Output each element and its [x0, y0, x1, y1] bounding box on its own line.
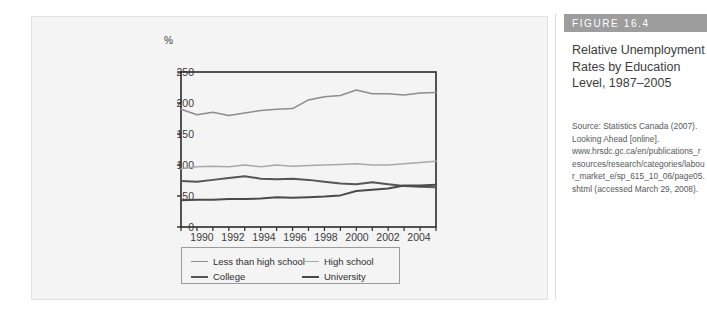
legend-label-less-than-high-school: Less than high school [213, 256, 305, 267]
axis-ticks [177, 72, 436, 231]
legend-item-college: College [191, 271, 245, 282]
legend-item-university: University [302, 271, 366, 282]
legend-label-college: College [213, 271, 245, 282]
figure-caption-column: FIGURE 16.4 Relative Unemployment Rates … [555, 14, 707, 300]
legend-swatch-high-school [302, 261, 319, 262]
axis-frame [181, 72, 436, 227]
legend-label-university: University [324, 271, 366, 282]
figure-source-citation: Source: Statistics Canada (2007). Lookin… [572, 120, 705, 196]
chart-legend: Less than high school High school Colleg… [181, 247, 400, 284]
caption-divider-rule [555, 14, 556, 300]
legend-item-high-school: High school [302, 256, 374, 267]
legend-swatch-college [191, 276, 208, 278]
figure-title: Relative Unemployment Rates by Education… [572, 42, 707, 92]
legend-item-less-than-high-school: Less than high school [191, 256, 305, 267]
plot-area-wrapper: % 250 200 150 100 50 0 1990 1992 1994 19… [32, 17, 549, 301]
legend-swatch-less-than-high-school [191, 261, 208, 262]
figure-chart-panel: % 250 200 150 100 50 0 1990 1992 1994 19… [31, 16, 548, 300]
data-series-group [181, 90, 436, 200]
figure-number-label: FIGURE 16.4 [572, 18, 650, 29]
legend-swatch-university [302, 276, 319, 278]
legend-label-high-school: High school [324, 256, 374, 267]
